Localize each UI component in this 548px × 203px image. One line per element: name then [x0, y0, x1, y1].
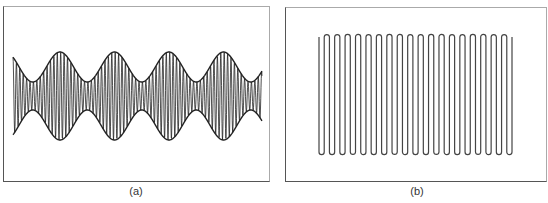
envelope-lower: [13, 110, 262, 140]
serpentine-plot: [286, 8, 548, 183]
panel-b-frame: [285, 7, 547, 182]
serpentine-line: [319, 34, 512, 154]
caption-b: (b): [397, 185, 437, 197]
caption-a: (a): [116, 185, 156, 197]
panel-a-frame: [3, 6, 270, 182]
carrier-wave: [13, 52, 262, 140]
am-waveform-plot: [4, 7, 271, 183]
